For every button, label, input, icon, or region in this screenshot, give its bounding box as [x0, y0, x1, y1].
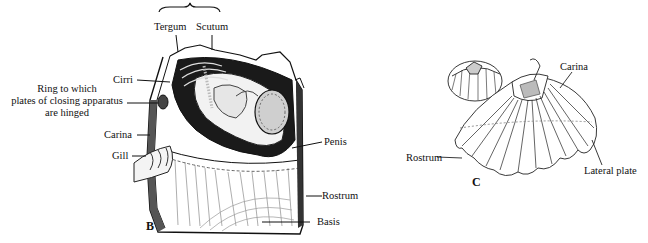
label-ring-line-1: Ring to which	[6, 83, 128, 95]
panel-c-illustration	[437, 59, 602, 176]
label-rostrum-b: Rostrum	[322, 190, 358, 202]
label-penis: Penis	[324, 136, 347, 148]
label-rostrum-c: Rostrum	[406, 152, 442, 164]
label-ring-line-3: are hinged	[6, 107, 128, 119]
label-tergum: Tergum	[154, 21, 186, 33]
panel-b-illustration	[127, 3, 322, 234]
panel-letter-b: B	[146, 219, 154, 234]
label-scutum: Scutum	[196, 21, 228, 33]
label-carina-c: Carina	[560, 61, 588, 73]
label-lateral-plate: Lateral plate	[584, 165, 637, 177]
label-ring-hinge: Ring to which plates of closing apparatu…	[6, 83, 128, 119]
label-ring-line-2: plates of closing apparatus	[6, 95, 128, 107]
panel-letter-c: C	[472, 175, 481, 190]
label-basis: Basis	[317, 216, 340, 228]
barnacle-diagram-artwork	[0, 0, 648, 243]
label-carina-b: Carina	[104, 129, 132, 141]
label-gill: Gill	[112, 150, 128, 162]
